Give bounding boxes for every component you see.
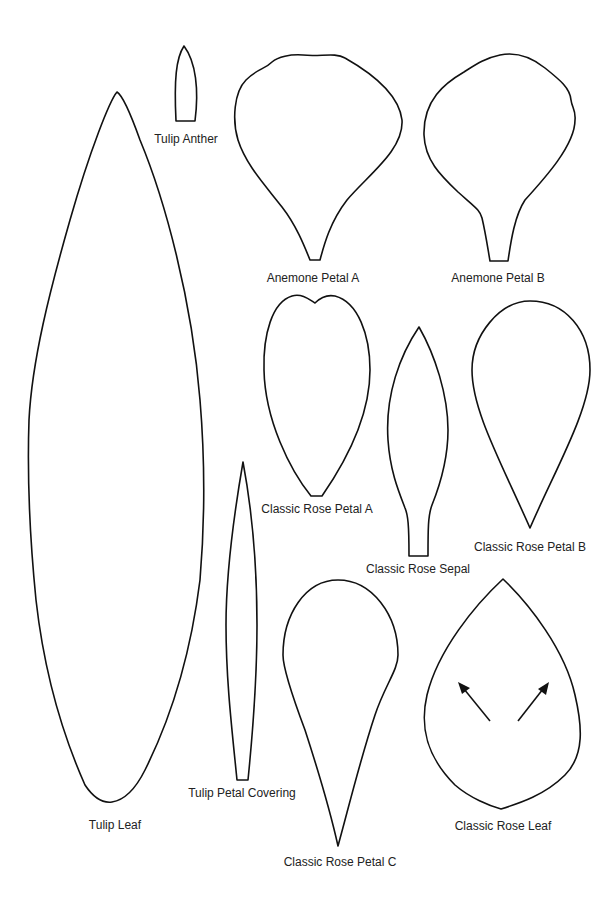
tulip-leaf-outline — [28, 92, 203, 802]
anemone-petal-b-template: Anemone Petal B — [424, 54, 575, 285]
fold-arrow-left-icon — [458, 682, 490, 721]
tulip-anther-label: Tulip Anther — [154, 132, 218, 146]
anemone-petal-b-outline — [424, 54, 575, 261]
tulip-petal-covering-label: Tulip Petal Covering — [188, 786, 296, 800]
classic-rose-petal-b-template: Classic Rose Petal B — [472, 301, 590, 554]
classic-rose-petal-c-label: Classic Rose Petal C — [284, 855, 397, 869]
classic-rose-sepal-template: Classic Rose Sepal — [366, 327, 470, 576]
tulip-petal-covering-outline — [226, 462, 257, 780]
classic-rose-leaf-template: Classic Rose Leaf — [424, 579, 580, 833]
classic-rose-leaf-label: Classic Rose Leaf — [455, 819, 552, 833]
classic-rose-petal-a-label: Classic Rose Petal A — [261, 502, 372, 516]
anemone-petal-a-label: Anemone Petal A — [267, 271, 360, 285]
classic-rose-sepal-label: Classic Rose Sepal — [366, 562, 470, 576]
anemone-petal-b-label: Anemone Petal B — [451, 271, 544, 285]
template-sheet: Tulip Anther Anemone Petal A Anemone Pet… — [0, 0, 611, 911]
tulip-anther-outline — [175, 46, 196, 121]
anemone-petal-a-outline — [235, 55, 402, 260]
classic-rose-petal-a-template: Classic Rose Petal A — [261, 295, 372, 516]
classic-rose-petal-c-template: Classic Rose Petal C — [283, 580, 398, 869]
tulip-leaf-label: Tulip Leaf — [89, 818, 142, 832]
classic-rose-sepal-outline — [388, 327, 448, 556]
anemone-petal-a-template: Anemone Petal A — [235, 55, 402, 285]
fold-arrow-right-icon — [518, 682, 549, 721]
tulip-anther-template: Tulip Anther — [154, 46, 218, 146]
classic-rose-petal-c-outline — [283, 580, 398, 846]
classic-rose-petal-b-label: Classic Rose Petal B — [474, 540, 586, 554]
classic-rose-leaf-outline — [424, 579, 580, 809]
classic-rose-petal-b-outline — [472, 301, 590, 528]
tulip-leaf-template: Tulip Leaf — [28, 92, 203, 832]
classic-rose-petal-a-outline — [264, 295, 370, 496]
